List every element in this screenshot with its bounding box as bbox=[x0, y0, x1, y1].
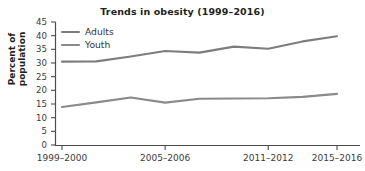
plot-area: 051015202530354045 1999–20002005–2006201… bbox=[0, 0, 365, 171]
y-tick-label: 10 bbox=[36, 113, 47, 123]
y-tick-label: 0 bbox=[42, 140, 47, 150]
obesity-trends-chart: Trends in obesity (1999–2016) Percent of… bbox=[0, 0, 365, 171]
x-tick-label: 2015–2016 bbox=[312, 153, 363, 163]
legend-label-adults: Adults bbox=[85, 26, 114, 37]
chart-legend: AdultsYouth bbox=[62, 26, 114, 50]
y-tick-label: 40 bbox=[36, 31, 47, 41]
x-tick-label: 2005–2006 bbox=[140, 153, 191, 163]
y-tick-label: 5 bbox=[42, 126, 47, 136]
x-tick-label: 2011–2012 bbox=[243, 153, 293, 163]
x-axis-ticks: 1999–20002005–20062011–20122015–2016 bbox=[37, 146, 363, 164]
legend-label-youth: Youth bbox=[84, 39, 110, 50]
y-tick-label: 25 bbox=[36, 72, 47, 82]
y-tick-label: 20 bbox=[36, 85, 47, 95]
y-axis-ticks: 051015202530354045 bbox=[36, 17, 55, 150]
y-tick-label: 15 bbox=[36, 99, 47, 109]
series-line-youth bbox=[62, 94, 337, 107]
x-tick-label: 1999–2000 bbox=[37, 153, 88, 163]
y-tick-label: 45 bbox=[36, 17, 47, 27]
y-tick-label: 30 bbox=[36, 58, 47, 68]
y-tick-label: 35 bbox=[36, 44, 47, 54]
